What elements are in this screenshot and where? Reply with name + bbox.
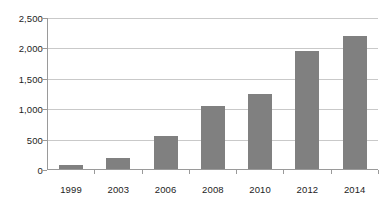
y-axis-tick-label: 1,500 (19, 75, 43, 85)
y-axis-tick-label: 1,000 (19, 105, 43, 115)
x-axis-tick-label: 2008 (202, 185, 224, 195)
x-axis-tick-label: 2010 (249, 185, 271, 195)
y-axis-tick-label: 2,000 (19, 44, 43, 54)
x-axis-tick (378, 170, 379, 174)
y-axis-tick-label: 0 (38, 166, 43, 176)
x-axis-tick (283, 170, 284, 174)
gridline-2500 (47, 18, 378, 19)
x-axis-tick-label: 2003 (108, 185, 130, 195)
x-axis-tick (236, 170, 237, 174)
bar-1999 (59, 165, 83, 169)
x-axis-line (47, 169, 378, 170)
y-axis-tick-label: 2,500 (19, 14, 43, 24)
bar-2010 (248, 94, 272, 170)
y-axis-tick-label: 500 (27, 136, 43, 146)
gridline-2000 (47, 48, 378, 49)
bar-2006 (154, 136, 178, 169)
bar-2014 (343, 36, 367, 169)
bar-chart: 2,500 2,000 1,500 1,000 500 0 (0, 0, 388, 205)
x-axis-tick (189, 170, 190, 174)
bar-2012 (295, 51, 319, 169)
plot-area (47, 18, 378, 170)
x-axis-tick (331, 170, 332, 174)
x-axis-tick-label: 2014 (344, 185, 366, 195)
x-axis-tick-label: 2006 (155, 185, 177, 195)
x-axis-tick (142, 170, 143, 174)
x-axis-tick (94, 170, 95, 174)
x-axis-tick-label: 1999 (60, 185, 82, 195)
x-axis-tick-label: 2012 (297, 185, 319, 195)
bar-2003 (106, 158, 130, 169)
bar-2008 (201, 106, 225, 169)
y-axis-line (47, 18, 48, 170)
gridline-1500 (47, 79, 378, 80)
